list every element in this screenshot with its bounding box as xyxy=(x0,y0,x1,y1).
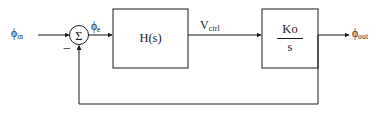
signal-label-v-ctrl: Vctrl xyxy=(200,19,220,31)
block-diagram-canvas: Σ − ϕin ϕe Vctrl ϕout H(s) Ko s xyxy=(0,0,386,117)
diagram-vector-layer xyxy=(0,0,386,117)
phi-in-subscript: in xyxy=(17,32,23,41)
feedback-minus-sign: − xyxy=(63,42,71,56)
vco-numerator-subscript: o xyxy=(291,22,297,36)
signal-label-phi-e: ϕe xyxy=(91,21,101,33)
block-vco-label: Ko s xyxy=(262,9,318,68)
vco-numerator: Ko xyxy=(279,23,300,37)
vco-denominator: s xyxy=(285,39,296,54)
signal-label-phi-out: ϕout xyxy=(352,28,368,40)
v-ctrl-symbol: V xyxy=(200,18,209,32)
vco-fraction: Ko s xyxy=(277,23,303,53)
summing-junction-symbol: Σ xyxy=(70,28,88,44)
signal-label-phi-in: ϕin xyxy=(11,28,23,40)
phi-out-subscript: out xyxy=(358,32,368,41)
phi-e-subscript: e xyxy=(97,25,101,34)
block-filter-label: H(s) xyxy=(113,9,188,68)
v-ctrl-subscript: ctrl xyxy=(209,24,220,33)
